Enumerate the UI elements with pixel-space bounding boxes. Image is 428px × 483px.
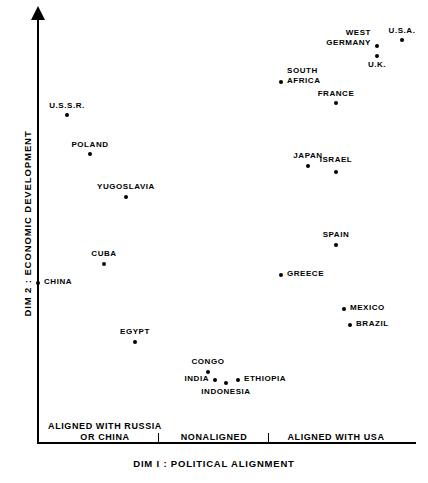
data-point-usa[interactable]	[400, 38, 404, 42]
x-axis-category-aligned-russia-china: ALIGNED WITH RUSSIA OR CHINA	[44, 421, 166, 443]
data-point-ethiopia[interactable]	[236, 378, 240, 382]
data-label-ussr: U.S.S.R.	[37, 101, 97, 111]
data-point-israel[interactable]	[334, 170, 338, 174]
data-label-india: INDIA	[155, 374, 209, 384]
data-point-france[interactable]	[334, 101, 338, 105]
data-point-india[interactable]	[213, 378, 217, 382]
data-point-west-germany[interactable]	[375, 44, 379, 48]
data-point-uk[interactable]	[375, 54, 379, 58]
data-point-greece[interactable]	[279, 273, 283, 277]
x-axis-title: DIM I : POLITICAL ALIGNMENT	[0, 458, 428, 469]
y-axis-line	[37, 18, 39, 444]
data-point-spain[interactable]	[334, 243, 338, 247]
data-point-mexico[interactable]	[342, 307, 346, 311]
data-label-france: FRANCE	[306, 89, 366, 99]
data-point-japan[interactable]	[306, 164, 310, 168]
data-point-egypt[interactable]	[133, 340, 137, 344]
x-axis-tick-2	[268, 433, 269, 443]
data-label-yugoslavia: YUGOSLAVIA	[88, 182, 164, 192]
x-axis-category-nonaligned: NONALIGNED	[168, 432, 260, 443]
y-axis-title: DIM 2 : ECONOMIC DEVELOPMENT	[22, 124, 33, 324]
data-label-uk: U.K.	[352, 60, 402, 70]
data-label-ethiopia: ETHIOPIA	[244, 374, 308, 384]
data-label-congo: CONGO	[180, 357, 236, 367]
data-label-mexico: MEXICO	[350, 303, 406, 313]
data-point-yugoslavia[interactable]	[124, 195, 128, 199]
x-axis-category-aligned-usa: ALIGNED WITH USA	[276, 432, 396, 443]
data-point-poland[interactable]	[88, 152, 92, 156]
data-point-indonesia[interactable]	[224, 381, 228, 385]
data-label-israel: ISRAEL	[308, 155, 364, 165]
data-point-cuba[interactable]	[102, 262, 106, 266]
data-label-greece: GREECE	[287, 269, 343, 279]
data-label-egypt: EGYPT	[107, 327, 163, 337]
data-label-brazil: BRAZIL	[356, 319, 412, 329]
data-point-china[interactable]	[36, 281, 40, 285]
data-label-usa: U.S.A.	[372, 26, 428, 36]
data-point-ussr[interactable]	[65, 113, 69, 117]
data-label-cuba: CUBA	[76, 249, 132, 259]
data-label-indonesia: INDONESIA	[192, 387, 260, 397]
data-label-spain: SPAIN	[308, 230, 364, 240]
scatter-plot-figure: DIM 2 : ECONOMIC DEVELOPMENT DIM I : POL…	[0, 0, 428, 483]
data-label-poland: POLAND	[60, 140, 120, 150]
data-label-south-africa: SOUTH AFRICA	[287, 66, 353, 85]
data-point-brazil[interactable]	[348, 323, 352, 327]
data-label-china: CHINA	[44, 277, 100, 287]
data-point-south-africa[interactable]	[279, 80, 283, 84]
data-label-west-germany: WEST GERMANY	[299, 28, 371, 47]
